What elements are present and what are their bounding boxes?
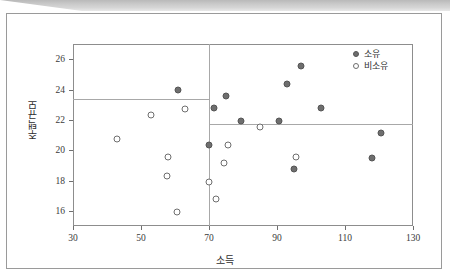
data-point: [163, 172, 170, 179]
legend: 소유 비소유: [353, 48, 388, 72]
data-point: [212, 196, 219, 203]
y-axis-label: 주택규모: [25, 100, 40, 140]
x-axis-tick-label: 50: [136, 233, 146, 243]
x-axis-tick: [413, 226, 414, 230]
data-point: [165, 153, 172, 160]
open-circle-icon: [353, 63, 359, 69]
data-point: [257, 123, 264, 130]
y-axis-tick-label: 24: [45, 85, 65, 95]
x-axis-tick: [141, 226, 142, 230]
data-point: [238, 118, 245, 125]
legend-label-not-owned: 비소유: [364, 62, 388, 71]
scanned-page-top-strip: [0, 0, 450, 11]
data-point: [223, 93, 230, 100]
legend-item-not-owned[interactable]: 비소유: [353, 60, 388, 72]
data-point: [221, 160, 228, 167]
x-axis-tick: [345, 226, 346, 230]
reference-line-income-split: [209, 44, 210, 226]
data-point: [114, 135, 121, 142]
data-point: [284, 81, 291, 88]
y-axis-tick: [69, 120, 73, 121]
data-point: [318, 105, 325, 112]
x-axis-tick-label: 70: [204, 233, 214, 243]
x-axis-tick: [73, 226, 74, 230]
scan-strip-corner-wedge: [0, 0, 82, 11]
x-axis-tick: [209, 226, 210, 230]
data-point: [206, 141, 213, 148]
y-axis-tick: [69, 181, 73, 182]
x-axis-tick: [277, 226, 278, 230]
filled-circle-icon: [353, 51, 359, 57]
data-point: [291, 166, 298, 173]
data-point: [292, 153, 299, 160]
legend-label-owned: 소유: [364, 50, 380, 59]
data-point: [182, 106, 189, 113]
data-point: [173, 209, 180, 216]
y-axis-tick-label: 18: [45, 176, 65, 186]
y-axis-tick-label: 20: [45, 145, 65, 155]
legend-item-owned[interactable]: 소유: [353, 48, 388, 60]
x-axis-tick-label: 110: [338, 233, 352, 243]
reference-line-left-group-mean: [73, 99, 209, 100]
x-axis-label: 소득: [7, 252, 443, 267]
y-axis-tick: [69, 59, 73, 60]
y-axis-tick-label: 22: [45, 115, 65, 125]
data-point: [275, 118, 282, 125]
x-axis-tick-label: 130: [406, 233, 420, 243]
data-point: [148, 112, 155, 119]
data-point: [297, 62, 304, 69]
y-axis-tick: [69, 211, 73, 212]
data-point: [175, 87, 182, 94]
data-point: [206, 179, 213, 186]
y-axis-tick-label: 26: [45, 54, 65, 64]
data-point: [369, 154, 376, 161]
y-axis-tick: [69, 90, 73, 91]
figure-frame: 30507090110130161820222426 주택규모 소득 소유 비소…: [6, 13, 442, 269]
x-axis-tick-label: 30: [68, 233, 78, 243]
data-point: [211, 105, 218, 112]
y-axis-tick: [69, 150, 73, 151]
x-axis-tick-label: 90: [272, 233, 282, 243]
y-axis-tick-label: 16: [45, 206, 65, 216]
data-point: [224, 141, 231, 148]
data-point: [377, 130, 384, 137]
